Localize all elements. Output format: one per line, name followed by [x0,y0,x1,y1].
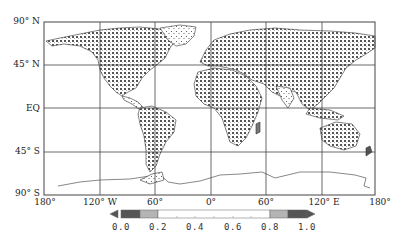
map-plot [0,0,409,245]
australia [320,122,360,150]
colorbar-bin-0.8-0.9 [270,210,288,218]
colorbar-tick-0.8: 0.8 [261,222,279,232]
colorbar-extend-high-arrow [307,210,315,218]
antarctic-peninsula [140,172,164,184]
colorbar-bin-0.9-1.0 [288,210,307,218]
colorbar-bin-0.1-0.2 [140,210,158,218]
north-america [46,27,176,96]
new-zealand [366,146,372,156]
colorbar-tick-1.0: 1.0 [298,222,316,232]
colorbar-tick-0.0: 0.0 [112,222,130,232]
colorbar-tick-0.2: 0.2 [149,222,167,232]
colorbar-tick-0.6: 0.6 [224,222,242,232]
map-figure: 90° N 45° N EQ 45° S 90° S 180° 120° W 6… [0,0,409,245]
colorbar [110,210,315,218]
land-masses [46,25,375,188]
se-asia-islands [306,108,344,120]
south-america [138,106,176,172]
colorbar-extend-low-arrow [110,210,118,218]
madagascar [256,122,260,134]
colorbar-bin-0.0-0.1 [121,210,140,218]
colorbar-tick-0.4: 0.4 [186,222,204,232]
antarctica-coast [58,172,370,188]
